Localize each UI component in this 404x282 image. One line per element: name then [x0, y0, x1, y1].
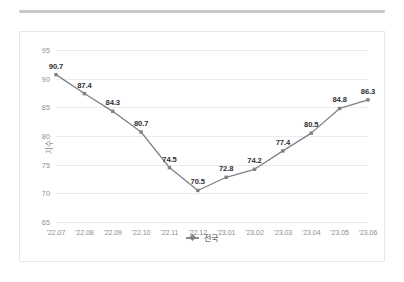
data-point-marker[interactable]	[338, 107, 341, 110]
data-point-label: 84.3	[106, 98, 120, 107]
y-axis-tick-label: 95	[42, 46, 50, 55]
gridline	[56, 222, 368, 223]
data-point-label: 80.5	[304, 120, 318, 129]
data-point-marker[interactable]	[83, 92, 86, 95]
chart-legend: 전국	[20, 232, 384, 243]
data-point-label: 74.2	[247, 156, 261, 165]
data-point-label: 72.8	[219, 164, 233, 173]
data-point-label: 74.5	[162, 155, 176, 164]
data-point-label: 90.7	[49, 62, 63, 71]
y-axis-tick-label: 65	[42, 218, 50, 227]
legend-item-label: 전국	[204, 232, 218, 243]
data-point-label: 80.7	[134, 119, 148, 128]
data-point-label: 87.4	[77, 81, 91, 90]
y-axis-tick-label: 70	[42, 189, 50, 198]
data-point-marker[interactable]	[139, 130, 142, 133]
data-point-label: 77.4	[276, 138, 290, 147]
data-point-marker[interactable]	[310, 131, 313, 134]
plot-area: 65707580859095 90.787.484.380.774.570.57…	[56, 50, 368, 222]
data-point-marker[interactable]	[111, 110, 114, 113]
data-point-marker[interactable]	[281, 149, 284, 152]
data-point-label: 84.8	[332, 95, 346, 104]
y-axis-tick-label: 75	[42, 160, 50, 169]
top-divider-rule	[19, 10, 385, 13]
data-point-marker[interactable]	[54, 73, 57, 76]
data-point-label: 70.5	[191, 177, 205, 186]
data-point-marker[interactable]	[196, 189, 199, 192]
series-line-layer	[56, 50, 368, 222]
y-axis-tick-label: 80	[42, 132, 50, 141]
data-point-label: 86.3	[361, 87, 375, 96]
y-axis-tick-label: 85	[42, 103, 50, 112]
series-line	[56, 75, 368, 191]
chart-page: 지수 65707580859095 90.787.484.380.774.570…	[0, 0, 404, 282]
data-point-marker[interactable]	[224, 176, 227, 179]
y-axis-title: 지수	[43, 139, 54, 154]
data-point-marker[interactable]	[168, 166, 171, 169]
legend-marker-icon	[186, 233, 199, 242]
data-point-marker[interactable]	[253, 168, 256, 171]
y-axis-tick-label: 90	[42, 74, 50, 83]
data-point-marker[interactable]	[366, 98, 369, 101]
chart-container: 지수 65707580859095 90.787.484.380.774.570…	[19, 31, 385, 262]
